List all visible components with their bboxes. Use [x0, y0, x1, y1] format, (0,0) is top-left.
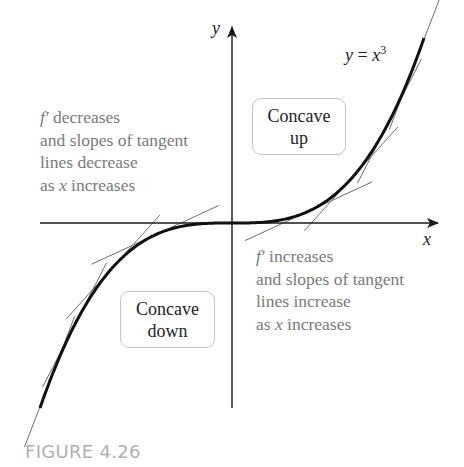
concave-up-line2: up [253, 127, 345, 149]
function-label: y = x3 [345, 43, 386, 66]
right-note-line2: and slopes of tangent [256, 268, 404, 291]
f-prime-symbol: f′ [40, 107, 49, 127]
x-axis-label: x [423, 229, 431, 250]
figure-caption: FIGURE 4.26 [25, 441, 141, 462]
f-prime-symbol: f′ [256, 246, 265, 266]
right-note-line1: f′ increases [256, 245, 404, 268]
left-note-line2: and slopes of tangent [40, 129, 188, 152]
concave-down-box: Concave down [120, 291, 215, 348]
function-equals: = [353, 45, 372, 65]
concavity-diagram [0, 0, 464, 467]
concave-up-line1: Concave [253, 105, 345, 127]
concave-down-line2: down [121, 320, 214, 342]
concave-down-line1: Concave [121, 298, 214, 320]
function-base: x [372, 45, 380, 65]
left-note-line1: f′ decreases [40, 106, 188, 129]
right-note: f′ increases and slopes of tangent lines… [256, 245, 404, 335]
y-axis-label: y [212, 18, 220, 39]
function-exponent: 3 [380, 43, 386, 57]
left-note: f′ decreases and slopes of tangent lines… [40, 106, 188, 196]
concave-up-box: Concave up [252, 98, 346, 155]
left-note-line4: as x increases [40, 174, 188, 197]
left-note-line3: lines decrease [40, 151, 188, 174]
function-lhs: y [345, 45, 353, 65]
right-note-line4: as x increases [256, 313, 404, 336]
right-note-line3: lines increase [256, 290, 404, 313]
